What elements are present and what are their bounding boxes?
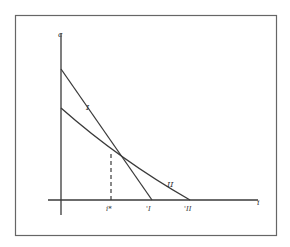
frame-border — [16, 16, 277, 236]
diagram-canvas: c i I II i* 'I 'II — [0, 0, 290, 247]
y-axis-label: c — [58, 30, 63, 39]
curve-I — [61, 69, 152, 200]
curve-II-label: II — [166, 180, 174, 189]
x-axis-label: i — [257, 198, 260, 207]
tick-I-label: 'I — [146, 205, 151, 213]
tick-II-label: 'II — [184, 205, 192, 213]
tick-istar-label: i* — [106, 205, 112, 213]
